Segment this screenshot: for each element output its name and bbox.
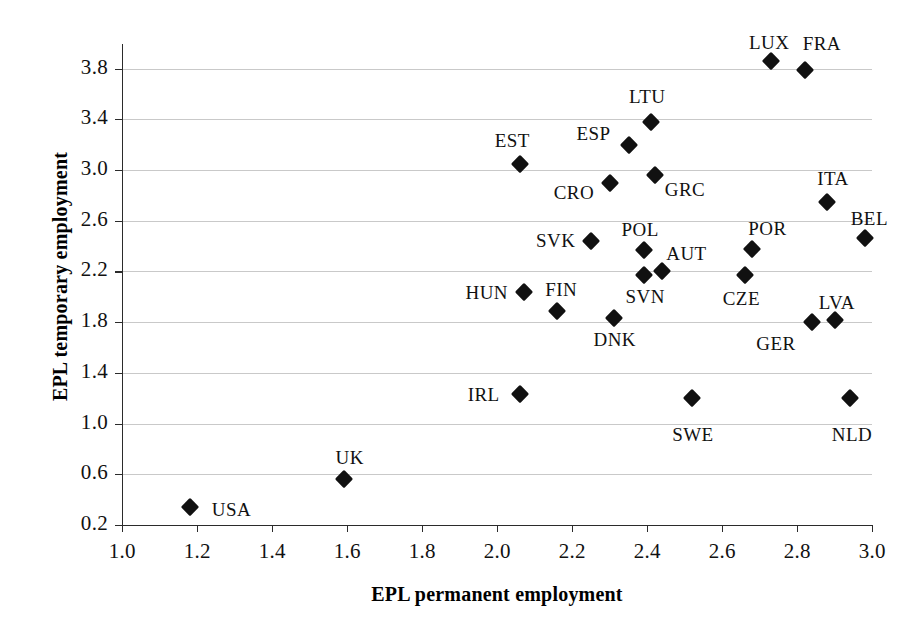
data-point-label: HUN: [466, 282, 508, 304]
data-point-label: POR: [748, 218, 786, 240]
x-axis-tick-label: 2.2: [537, 539, 607, 564]
gridline-horizontal: [122, 322, 872, 323]
x-axis-tick: [272, 525, 273, 532]
x-axis-tick-label: 2.8: [762, 539, 832, 564]
gridline-horizontal: [122, 119, 872, 120]
y-axis-tick: [115, 474, 122, 475]
gridline-horizontal: [122, 271, 872, 272]
data-point-label: FIN: [545, 279, 577, 301]
data-point-label: AUT: [666, 243, 706, 265]
y-axis-tick: [115, 373, 122, 374]
x-axis-tick-label: 1.4: [237, 539, 307, 564]
y-axis-tick: [115, 525, 122, 526]
scatter-chart: EPL temporary employment EPL permanent e…: [0, 0, 921, 631]
gridline-horizontal: [122, 373, 872, 374]
gridline-horizontal: [122, 69, 872, 70]
data-point-label: CZE: [723, 288, 760, 310]
y-axis-tick-label: 3.0: [0, 156, 108, 181]
data-point-label: CRO: [554, 182, 594, 204]
x-axis-tick: [122, 525, 123, 532]
x-axis-tick: [347, 525, 348, 532]
x-axis-tick-label: 2.4: [612, 539, 682, 564]
y-axis-tick: [115, 170, 122, 171]
x-axis-tick: [197, 525, 198, 532]
y-axis-line: [122, 44, 123, 526]
data-point-label: NLD: [832, 424, 872, 446]
x-axis-tick-label: 2.6: [687, 539, 757, 564]
x-axis-tick-label: 1.8: [387, 539, 457, 564]
x-axis-tick: [797, 525, 798, 532]
x-axis-tick-label: 1.0: [87, 539, 157, 564]
y-axis-tick-label: 0.2: [0, 511, 108, 536]
y-axis-tick: [115, 221, 122, 222]
y-axis-tick-label: 1.0: [0, 410, 108, 435]
gridline-horizontal: [122, 474, 872, 475]
data-point-label: SVK: [536, 230, 575, 252]
data-point-label: USA: [212, 499, 251, 521]
x-axis-tick: [422, 525, 423, 532]
data-point-label: BEL: [851, 208, 888, 230]
x-axis-tick-label: 2.0: [462, 539, 532, 564]
x-axis-tick: [647, 525, 648, 532]
x-axis-tick-label: 3.0: [837, 539, 907, 564]
data-point-label: SVN: [626, 286, 665, 308]
y-axis-tick-label: 1.4: [0, 359, 108, 384]
x-axis-title: EPL permanent employment: [122, 583, 872, 606]
data-point-label: UK: [336, 447, 364, 469]
data-point-label: LTU: [629, 86, 665, 108]
y-axis-tick-label: 0.6: [0, 460, 108, 485]
y-axis-tick: [115, 424, 122, 425]
y-axis-tick-label: 1.8: [0, 308, 108, 333]
y-axis-tick: [115, 322, 122, 323]
x-axis-tick: [722, 525, 723, 532]
data-point-label: FRA: [803, 33, 841, 55]
data-point-label: ESP: [577, 123, 611, 145]
x-axis-tick-label: 1.6: [312, 539, 382, 564]
gridline-horizontal: [122, 424, 872, 425]
data-point-label: GER: [756, 333, 795, 355]
x-axis-tick-label: 1.2: [162, 539, 232, 564]
data-point-label: ITA: [817, 168, 848, 190]
data-point-label: POL: [622, 219, 659, 241]
data-point-label: LVA: [819, 292, 855, 314]
data-point-label: EST: [495, 130, 530, 152]
x-axis-tick: [872, 525, 873, 532]
data-point-label: GRC: [665, 179, 705, 201]
y-axis-tick: [115, 69, 122, 70]
y-axis-tick-label: 2.6: [0, 207, 108, 232]
data-point-label: SWE: [672, 424, 713, 446]
y-axis-tick-label: 3.4: [0, 105, 108, 130]
x-axis-tick: [497, 525, 498, 532]
x-axis-tick: [572, 525, 573, 532]
y-axis-tick-label: 3.8: [0, 55, 108, 80]
gridline-horizontal: [122, 170, 872, 171]
data-point-label: DNK: [594, 329, 636, 351]
data-point-label: IRL: [468, 384, 500, 406]
y-axis-tick: [115, 119, 122, 120]
data-point-label: LUX: [749, 32, 789, 54]
y-axis-tick: [115, 271, 122, 272]
y-axis-tick-label: 2.2: [0, 257, 108, 282]
